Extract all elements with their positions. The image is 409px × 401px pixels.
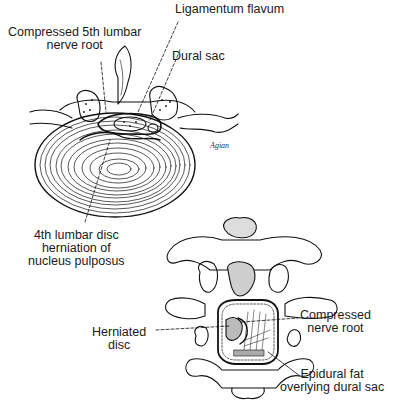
label-compressed-5th-lumbar-nerve-root: Compressed 5th lumbar nerve root	[8, 26, 141, 52]
vertebra-top-view: Agian	[30, 46, 238, 217]
artist-signature: Agian	[209, 141, 229, 150]
label-epidural-fat: Epidural fat overlying dural sac	[280, 368, 384, 394]
label-ligamentum-flavum: Ligamentum flavum	[175, 3, 284, 16]
label-dural-sac: Dural sac	[172, 50, 225, 63]
label-compressed-nerve-root: Compressed nerve root	[300, 309, 371, 335]
label-herniated-disc: Herniated disc	[92, 326, 146, 352]
label-4th-lumbar-disc-herniation: 4th lumbar disc herniation of nucleus pu…	[28, 229, 125, 268]
